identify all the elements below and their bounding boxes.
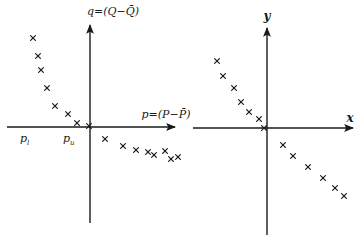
x-marker — [121, 144, 126, 149]
x-marker — [31, 36, 36, 41]
x-marker — [306, 165, 311, 170]
right-y-axis-label: y — [263, 9, 272, 23]
right-x-axis-label: x — [345, 111, 354, 125]
x-marker — [103, 137, 108, 142]
x-marker — [333, 186, 338, 191]
x-marker — [66, 112, 71, 117]
x-marker — [146, 150, 151, 155]
x-marker — [215, 59, 220, 64]
x-marker — [221, 74, 226, 79]
figure: q=(Q−Q̄) p=(P−P̄) pl pu y x — [0, 0, 356, 244]
x-marker — [134, 148, 139, 153]
x-marker — [342, 194, 347, 199]
x-marker — [232, 86, 237, 91]
x-marker — [247, 110, 252, 115]
x-marker — [169, 157, 174, 162]
x-marker — [152, 153, 157, 158]
x-marker — [257, 117, 262, 122]
left-y-axis-label: q=(Q−Q̄) — [87, 5, 139, 18]
scatter-diagrams: q=(Q−Q̄) p=(P−P̄) pl pu y x — [0, 0, 356, 244]
left-x-axis-label: p=(P−P̄) — [142, 108, 191, 121]
x-marker — [163, 149, 168, 154]
left-panel: q=(Q−Q̄) p=(P−P̄) pl pu — [7, 5, 190, 223]
tick-label-p-lower: pl — [20, 132, 29, 147]
x-marker — [291, 154, 296, 159]
x-marker — [176, 155, 181, 160]
x-marker — [75, 121, 80, 126]
tick-label-p-upper: pu — [63, 132, 75, 147]
left-data-points — [31, 36, 181, 162]
x-marker — [36, 54, 41, 59]
x-marker — [321, 176, 326, 181]
right-panel: y x — [193, 9, 354, 235]
x-marker — [45, 86, 50, 91]
x-marker — [239, 100, 244, 105]
x-marker — [281, 143, 286, 148]
x-marker — [39, 68, 44, 73]
x-marker — [53, 104, 58, 109]
